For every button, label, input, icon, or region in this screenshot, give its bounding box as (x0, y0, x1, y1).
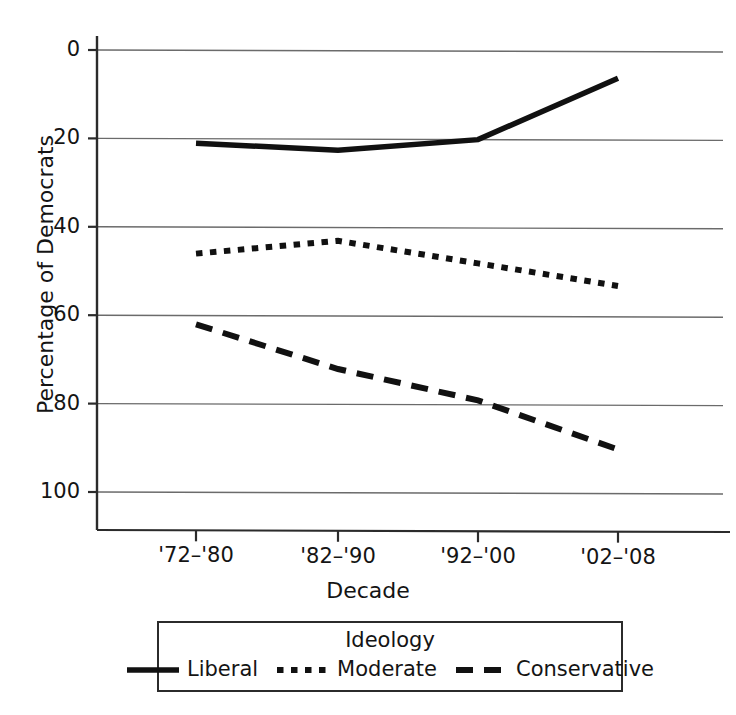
legend-title: Ideology (159, 628, 621, 652)
gridline (97, 227, 723, 229)
series-line-conservative (196, 324, 618, 449)
x-tick-label: '72–'80 (131, 545, 261, 566)
dashed-line-swatch (455, 664, 509, 676)
gridline (97, 315, 723, 317)
legend-items: LiberalModerateConservative (159, 659, 621, 680)
y-tick-label: 0 (22, 39, 80, 60)
legend-label: Moderate (337, 659, 437, 680)
data-series-layer (196, 78, 618, 449)
gridline (97, 492, 723, 494)
x-tick-label: '02–'08 (553, 547, 683, 568)
legend-label: Conservative (516, 659, 654, 680)
y-axis-title: Percentage of Democrats (33, 110, 58, 440)
legend: Ideology LiberalModerateConservative (157, 621, 623, 692)
y-axis-ticks (88, 50, 97, 492)
gridline (97, 50, 723, 52)
legend-item-liberal[interactable]: Liberal (126, 659, 258, 680)
solid-line-swatch (126, 664, 180, 676)
x-axis-title: Decade (0, 578, 736, 603)
series-line-moderate (196, 241, 618, 286)
dotted-line-swatch (276, 664, 330, 676)
gridline (97, 138, 723, 140)
gridline (97, 404, 723, 406)
legend-item-moderate[interactable]: Moderate (276, 659, 437, 680)
line-chart: 100806040200 '72–'80'82–'90'92–'00'02–'0… (0, 0, 736, 715)
legend-label: Liberal (187, 659, 258, 680)
legend-item-conservative[interactable]: Conservative (455, 659, 654, 680)
x-tick-label: '92–'00 (413, 546, 543, 567)
x-axis-line (97, 530, 730, 532)
plot-area (0, 0, 736, 715)
x-tick-label: '82–'90 (273, 546, 403, 567)
y-tick-label: 100 (22, 481, 80, 502)
gridlines (97, 50, 723, 494)
